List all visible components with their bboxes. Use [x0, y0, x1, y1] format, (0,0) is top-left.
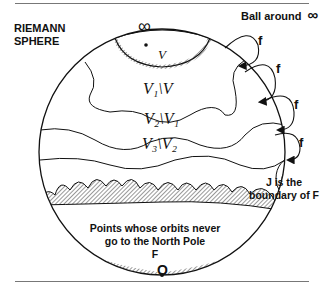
region-v1-label: V₁\V — [143, 82, 173, 95]
origin-label: O — [157, 264, 168, 277]
f-arrow-label-3: f — [294, 98, 298, 111]
filled-julia-set-caption: Points whose orbits never go to the Nort… — [80, 222, 230, 261]
julia-set-caption: J is the boundary of F — [244, 176, 324, 202]
f-arrow-label-1: f — [258, 34, 262, 47]
infinity-label: ∞ — [138, 20, 151, 33]
f-arrow-label-2: f — [276, 62, 280, 75]
region-v-label: V — [158, 48, 166, 61]
region-v2-label: V₂\V₁ — [144, 112, 179, 125]
f-arrow-label-4: f — [299, 136, 303, 149]
region-v3-label: V₃\V₂ — [142, 137, 177, 150]
